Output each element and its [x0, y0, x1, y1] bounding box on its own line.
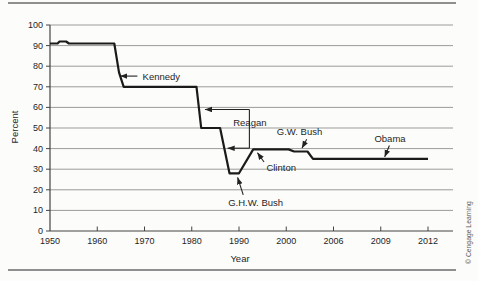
annotation-label-kennedy: Kennedy	[143, 71, 181, 82]
copyright-credit: © Cengage Learning	[465, 201, 473, 264]
annotation-label-ghw-bush: G.H.W. Bush	[228, 197, 283, 208]
annotation-arrow-gw-bush	[302, 139, 307, 148]
annotations: KennedyClintonG.H.W. BushG.W. BushObamaR…	[120, 71, 406, 208]
x-tick-label-1980: 1980	[182, 236, 202, 246]
y-tick-label-10: 10	[33, 205, 43, 215]
y-tick-label-30: 30	[33, 164, 43, 174]
x-tick-label-2006: 2006	[323, 236, 343, 246]
y-tick-label-50: 50	[33, 123, 43, 133]
bottom-divider	[8, 269, 456, 271]
annotation-label-reagan: Reagan	[233, 117, 266, 128]
y-tick-label-100: 100	[28, 20, 43, 30]
x-tick-label-2000: 2000	[276, 236, 296, 246]
chart-page: 0102030405060708090100195019601970198019…	[0, 0, 478, 281]
y-tick-label-0: 0	[38, 226, 43, 236]
top-divider	[8, 2, 456, 4]
x-tick-label-1990: 1990	[229, 236, 249, 246]
x-tick-label-1970: 1970	[134, 236, 154, 246]
annotation-label-gw-bush: G.W. Bush	[277, 126, 322, 137]
x-axis-title: Year	[230, 253, 249, 264]
annotation-arrow-ghw-bush	[238, 177, 244, 195]
x-tick-label-1960: 1960	[87, 236, 107, 246]
annotation-arrow-clinton	[257, 153, 264, 162]
y-tick-label-60: 60	[33, 102, 43, 112]
y-tick-label-80: 80	[33, 61, 43, 71]
y-tick-label-40: 40	[33, 144, 43, 154]
y-tick-label-70: 70	[33, 82, 43, 92]
x-tick-label-2012: 2012	[418, 236, 438, 246]
annotation-label-clinton: Clinton	[266, 162, 296, 173]
y-tick-label-20: 20	[33, 185, 43, 195]
y-tick-label-90: 90	[33, 41, 43, 51]
annotation-label-obama: Obama	[374, 133, 406, 144]
y-axis-title: Percent	[9, 110, 20, 143]
annotation-arrow-obama	[385, 146, 390, 157]
tax-rate-line-chart: 0102030405060708090100195019601970198019…	[0, 0, 478, 281]
x-tick-label-1950: 1950	[40, 236, 60, 246]
x-tick-label-2009: 2009	[371, 236, 391, 246]
